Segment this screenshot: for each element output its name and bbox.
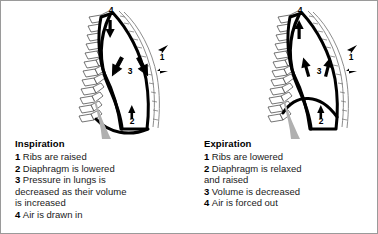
- list-item-text: Air is drawn in: [23, 209, 83, 220]
- caption-title: Expiration: [204, 137, 372, 150]
- diagram-label-1: 1: [349, 52, 354, 62]
- caption-inspiration: Inspiration 1Ribs are raised 2Diaphragm …: [15, 137, 183, 221]
- caption-title: Inspiration: [15, 137, 183, 150]
- list-item: 2Diaphragm is lowered: [15, 163, 183, 175]
- list-item-number: 3: [204, 186, 209, 197]
- list-item: 2Diaphragm is relaxed and raised: [204, 163, 372, 186]
- list-item-text: Air is forced out: [212, 197, 278, 208]
- diagram-label-2: 2: [319, 116, 324, 126]
- diagram-label-2: 2: [130, 116, 135, 126]
- list-item: 3Volume is decreased: [204, 186, 372, 198]
- diagram-label-3: 3: [317, 66, 322, 76]
- panel-expiration: 4 1 3 2 Expiration 1Ribs are lowered 2Di…: [190, 1, 378, 234]
- list-item-text: Volume is decreased: [212, 186, 300, 197]
- caption-list: 1Ribs are lowered 2Diaphragm is relaxed …: [204, 151, 372, 209]
- list-item-number: 2: [15, 163, 20, 174]
- diagram-label-3: 3: [128, 66, 133, 76]
- list-item-number: 1: [15, 151, 20, 162]
- list-item-number: 3: [15, 174, 20, 185]
- diagram-label-4: 4: [109, 5, 114, 15]
- diagram-label-4: 4: [298, 5, 303, 15]
- panel-inspiration: 4 1 3 2 Inspiration 1Ribs are raised 2Di…: [1, 1, 190, 234]
- caption-expiration: Expiration 1Ribs are lowered 2Diaphragm …: [204, 137, 372, 209]
- figure-frame: 4 1 3 2 Inspiration 1Ribs are raised 2Di…: [0, 0, 378, 234]
- diaphragm-shading: [283, 101, 300, 139]
- list-item: 1Ribs are lowered: [204, 151, 372, 163]
- list-item: 1Ribs are raised: [15, 151, 183, 163]
- thorax-inspiration-diagram: 4 1 3 2: [1, 1, 190, 141]
- list-item-number: 4: [204, 197, 209, 208]
- list-item-text: Ribs are raised: [23, 151, 87, 162]
- list-item-number: 1: [204, 151, 209, 162]
- list-item-text: Diaphragm is lowered: [23, 163, 115, 174]
- list-item: 3Pressure in lungs is decreased as their…: [15, 174, 183, 209]
- list-item: 4Air is forced out: [204, 197, 372, 209]
- thoracic-cavity-outline: [288, 13, 337, 129]
- list-item-text: Diaphragm is relaxed and raised: [204, 163, 302, 186]
- list-item: 4Air is drawn in: [15, 209, 183, 221]
- caption-list: 1Ribs are raised 2Diaphragm is lowered 3…: [15, 151, 183, 221]
- list-item-text: Pressure in lungs is decreased as their …: [15, 174, 126, 208]
- list-item-number: 2: [204, 163, 209, 174]
- diagram-label-1: 1: [160, 52, 165, 62]
- list-item-number: 4: [15, 209, 20, 220]
- thorax-expiration-diagram: 4 1 3 2: [190, 1, 378, 141]
- list-item-text: Ribs are lowered: [212, 151, 283, 162]
